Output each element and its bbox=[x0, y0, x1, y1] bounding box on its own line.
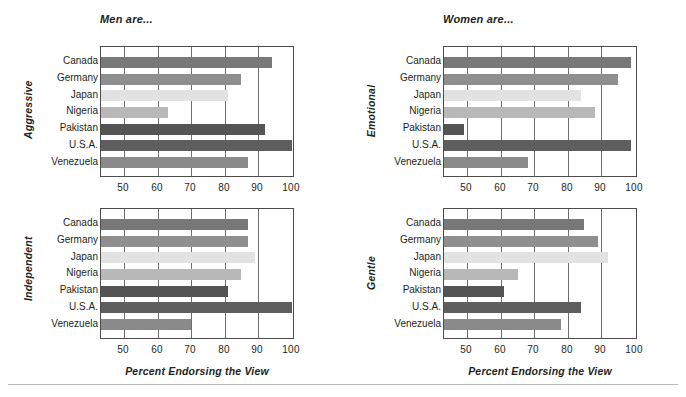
bar-row bbox=[444, 57, 636, 68]
bar-japan bbox=[444, 90, 581, 101]
x-tick-label: 60 bbox=[151, 181, 163, 195]
x-tick-labels-independent: 5060708090100 bbox=[100, 343, 294, 357]
x-tick-label: 100 bbox=[282, 343, 300, 357]
plot-area-independent bbox=[100, 208, 294, 339]
chart-panel-independent: IndependentCanadaGermanyJapanNigeriaPaki… bbox=[0, 198, 343, 396]
category-label: Canada bbox=[30, 215, 98, 232]
bar-row bbox=[101, 236, 293, 247]
bar-series-independent bbox=[101, 209, 293, 338]
bar-row bbox=[101, 286, 293, 297]
bar-germany bbox=[444, 74, 618, 85]
x-tick-label: 100 bbox=[282, 181, 300, 195]
category-label: U.S.A. bbox=[373, 299, 441, 316]
panel-super-title-aggressive: Men are... bbox=[100, 13, 153, 25]
x-tick-label: 60 bbox=[151, 343, 163, 357]
bar-row bbox=[101, 107, 293, 118]
plot-area-emotional bbox=[443, 46, 637, 177]
bar-row bbox=[444, 236, 636, 247]
x-tick-label: 80 bbox=[561, 343, 573, 357]
x-tick-label: 70 bbox=[527, 181, 539, 195]
bar-row bbox=[444, 302, 636, 313]
category-label: U.S.A. bbox=[30, 137, 98, 154]
bar-japan bbox=[101, 252, 255, 263]
bar-row bbox=[101, 124, 293, 135]
category-label: Pakistan bbox=[30, 282, 98, 299]
category-label: Japan bbox=[373, 86, 441, 103]
category-label: Nigeria bbox=[30, 265, 98, 282]
bar-row bbox=[444, 157, 636, 168]
bar-nigeria bbox=[101, 269, 241, 280]
x-tick-label: 50 bbox=[460, 181, 472, 195]
x-tick-label: 70 bbox=[527, 343, 539, 357]
x-tick-label: 90 bbox=[594, 343, 606, 357]
category-label: Germany bbox=[30, 70, 98, 87]
bar-row bbox=[444, 124, 636, 135]
panel-super-title-emotional: Women are... bbox=[443, 13, 514, 25]
bar-row bbox=[444, 140, 636, 151]
bar-pakistan bbox=[101, 286, 228, 297]
x-tick-label: 90 bbox=[594, 181, 606, 195]
bar-nigeria bbox=[444, 107, 595, 118]
bar-canada bbox=[444, 57, 631, 68]
bar-venezuela bbox=[444, 319, 561, 330]
x-tick-label: 80 bbox=[218, 343, 230, 357]
bar-pakistan bbox=[101, 124, 265, 135]
bar-series-gentle bbox=[444, 209, 636, 338]
bar-germany bbox=[101, 74, 241, 85]
category-label: Canada bbox=[373, 53, 441, 70]
category-label: Pakistan bbox=[373, 282, 441, 299]
x-tick-label: 60 bbox=[494, 181, 506, 195]
bar-row bbox=[101, 157, 293, 168]
chart-panel-gentle: GentleCanadaGermanyJapanNigeriaPakistanU… bbox=[343, 198, 686, 396]
category-label: Pakistan bbox=[373, 120, 441, 137]
bar-canada bbox=[101, 219, 248, 230]
x-tick-label: 60 bbox=[494, 343, 506, 357]
bar-row bbox=[444, 74, 636, 85]
x-tick-label: 90 bbox=[251, 181, 263, 195]
category-axis-gentle: CanadaGermanyJapanNigeriaPakistanU.S.A.V… bbox=[373, 215, 441, 332]
x-tick-label: 80 bbox=[561, 181, 573, 195]
bar-series-aggressive bbox=[101, 47, 293, 176]
x-tick-label: 50 bbox=[117, 181, 129, 195]
bar-row bbox=[444, 286, 636, 297]
bar-row bbox=[101, 219, 293, 230]
bar-usa bbox=[101, 302, 292, 313]
bar-row bbox=[444, 269, 636, 280]
category-label: Venezuela bbox=[30, 153, 98, 170]
category-label: Japan bbox=[30, 248, 98, 265]
bar-row bbox=[101, 90, 293, 101]
category-label: Nigeria bbox=[373, 103, 441, 120]
category-axis-independent: CanadaGermanyJapanNigeriaPakistanU.S.A.V… bbox=[30, 215, 98, 332]
figure-canvas: Men are...AggressiveCanadaGermanyJapanNi… bbox=[0, 0, 686, 397]
bar-nigeria bbox=[101, 107, 168, 118]
bar-row bbox=[101, 57, 293, 68]
x-tick-label: 90 bbox=[251, 343, 263, 357]
bar-row bbox=[444, 219, 636, 230]
category-label: Germany bbox=[30, 232, 98, 249]
category-axis-emotional: CanadaGermanyJapanNigeriaPakistanU.S.A.V… bbox=[373, 53, 441, 170]
category-label: Germany bbox=[373, 232, 441, 249]
category-label: Germany bbox=[373, 70, 441, 87]
bar-usa bbox=[444, 140, 631, 151]
chart-panel-emotional: Women are...EmotionalCanadaGermanyJapanN… bbox=[343, 0, 686, 198]
bar-row bbox=[444, 319, 636, 330]
bar-japan bbox=[101, 90, 228, 101]
bar-venezuela bbox=[444, 157, 528, 168]
bar-usa bbox=[444, 302, 581, 313]
plot-area-gentle bbox=[443, 208, 637, 339]
x-axis-title-independent: Percent Endorsing the View bbox=[125, 365, 269, 377]
x-tick-label: 100 bbox=[625, 181, 643, 195]
bar-canada bbox=[101, 57, 272, 68]
x-tick-label: 50 bbox=[460, 343, 472, 357]
bar-japan bbox=[444, 252, 608, 263]
footer-divider bbox=[8, 384, 678, 385]
category-label: Venezuela bbox=[373, 315, 441, 332]
bar-germany bbox=[101, 236, 248, 247]
bar-venezuela bbox=[101, 157, 248, 168]
bar-pakistan bbox=[444, 124, 464, 135]
plot-area-aggressive bbox=[100, 46, 294, 177]
category-label: Nigeria bbox=[373, 265, 441, 282]
x-tick-labels-gentle: 5060708090100 bbox=[443, 343, 637, 357]
x-tick-label: 70 bbox=[184, 181, 196, 195]
category-label: Venezuela bbox=[30, 315, 98, 332]
